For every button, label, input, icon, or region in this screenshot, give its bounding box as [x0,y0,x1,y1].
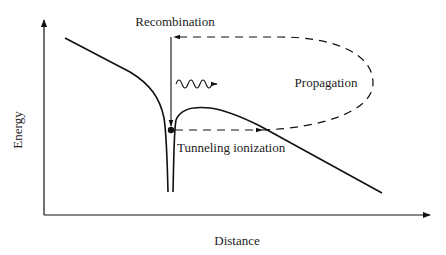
tunneling-ionization-label: Tunneling ionization [177,140,286,155]
potential-curve [65,38,382,193]
electron-dot [168,127,174,133]
x-axis-label: Distance [214,233,260,248]
propagation-label: Propagation [295,75,358,90]
axes [44,20,430,215]
recombination-label: Recombination [135,14,215,29]
y-axis-label: Energy [10,111,25,149]
potential-left-branch [65,38,168,192]
three-step-model-diagram: Recombination Propagation Tunneling ioni… [0,0,446,255]
photon-emission-wave [176,80,217,88]
